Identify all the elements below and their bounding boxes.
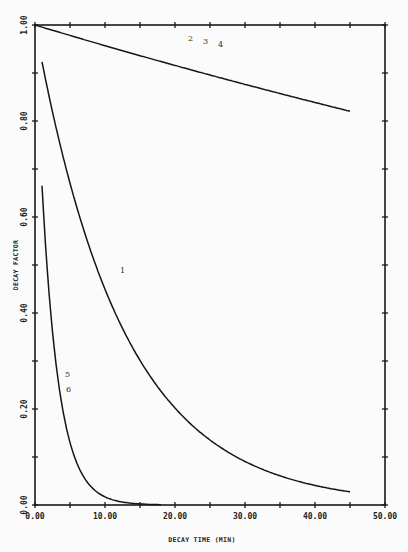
plot-frame (35, 25, 385, 505)
y-tick-label: 0.20 (20, 399, 29, 418)
curve-label-1: 1 (120, 266, 125, 275)
y-tick-label: 0.40 (20, 303, 29, 322)
y-tick-label: 0.60 (20, 207, 29, 226)
y-axis-title: DECAY FACTOR (12, 240, 20, 291)
y-tick-labels: 0.000.200.400.600.801.00 (20, 15, 29, 514)
x-axis-title: DECAY TIME (MIN) (168, 536, 235, 544)
x-tick-label: 10.00 (93, 512, 117, 521)
curve-5-6 (42, 186, 161, 505)
decay-chart: 0.000.200.400.600.801.00 0.0010.0020.003… (0, 0, 408, 552)
y-tick-label: 1.00 (20, 15, 29, 34)
x-tick-label: 50.00 (373, 512, 397, 521)
curve-label-4: 4 (218, 40, 223, 49)
x-tick-label: 20.00 (163, 512, 187, 521)
curve-labels: 234156 (65, 34, 223, 394)
curve-1 (42, 62, 350, 492)
axis-ticks (32, 22, 388, 508)
x-tick-label: 40.00 (303, 512, 327, 521)
curve-label-2: 2 (188, 34, 193, 43)
curve-label-5: 5 (65, 370, 70, 379)
curve-label-6: 6 (66, 385, 71, 394)
curves (35, 25, 350, 505)
x-tick-label: 0.00 (25, 512, 44, 521)
x-tick-labels: 0.0010.0020.0030.0040.0050.00 (25, 512, 397, 521)
x-tick-label: 30.00 (233, 512, 257, 521)
curve-label-3: 3 (203, 37, 208, 46)
y-tick-label: 0.80 (20, 111, 29, 130)
